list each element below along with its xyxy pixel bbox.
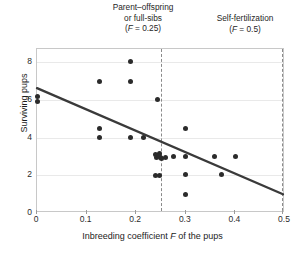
x-tick-mark: [135, 210, 136, 214]
data-point: [128, 135, 133, 140]
x-axis-title: Inbreeding coefficient F of the pups: [20, 231, 285, 241]
inbreeding-scatter-figure: Parent–offspring or full-sibs (F = 0.25)…: [0, 0, 292, 257]
x-tick-label-0-5: 0.5: [264, 214, 292, 224]
data-point: [183, 126, 188, 131]
x-tick-label-0-2: 0.2: [115, 214, 155, 224]
x-tick-label-0-3: 0.3: [165, 214, 205, 224]
x-tick-label-0: 0: [16, 214, 56, 224]
annotation-self-fertilization-line3: (F = 0.5): [200, 24, 290, 35]
data-point: [97, 135, 102, 140]
x-axis-title-prefix: Inbreeding coefficient: [82, 231, 170, 241]
data-point: [97, 79, 102, 84]
x-tick-mark: [234, 210, 235, 214]
regression-line: [37, 49, 283, 211]
x-tick-mark: [282, 210, 283, 214]
annotation-parent-offspring: Parent–offspring or full-sibs (F = 0.25): [95, 2, 191, 34]
annotation-self-fertilization: Self-fertilization (F = 0.5): [200, 13, 290, 34]
data-point: [157, 173, 162, 178]
x-tick-mark: [36, 210, 37, 214]
annotation-self-fertilization-value: = 0.5): [237, 24, 261, 34]
data-point: [219, 172, 224, 177]
data-point: [128, 79, 133, 84]
x-axis-ticks: 00.10.20.30.40.5: [36, 214, 284, 228]
x-tick-label-0-4: 0.4: [214, 214, 254, 224]
annotation-parent-offspring-value: = 0.25): [133, 23, 161, 33]
x-axis-title-suffix: of the pups: [176, 231, 223, 241]
x-tick-label-0-1: 0.1: [66, 214, 106, 224]
annotation-parent-offspring-line1: Parent–offspring: [95, 2, 191, 13]
data-point: [97, 126, 102, 131]
data-point: [128, 59, 133, 64]
x-tick-mark: [185, 210, 186, 214]
x-tick-mark: [86, 210, 87, 214]
data-point: [35, 94, 40, 99]
data-point: [212, 154, 217, 159]
annotation-parent-offspring-line3: (F = 0.25): [95, 23, 191, 34]
y-axis-title: Surviving pups: [19, 33, 29, 173]
plot-area: [36, 48, 284, 212]
data-point: [233, 154, 238, 159]
data-point: [171, 154, 176, 159]
annotation-parent-offspring-line2: or full-sibs: [95, 13, 191, 24]
data-point: [35, 99, 40, 104]
annotation-self-fertilization-line1: Self-fertilization: [200, 13, 290, 24]
data-point: [183, 192, 188, 197]
